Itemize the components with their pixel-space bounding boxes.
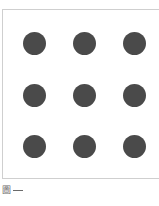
grid-dot [73, 32, 96, 55]
figure-caption: 圖 [2, 184, 23, 196]
grid-dot [23, 32, 46, 55]
grid-dot [123, 84, 146, 107]
grid-dot [73, 135, 96, 158]
figure-canvas: 圖 [0, 0, 159, 206]
grid-dot [73, 84, 96, 107]
grid-dot [123, 135, 146, 158]
grid-dot [123, 32, 146, 55]
grid-dot [23, 135, 46, 158]
grid-dot [23, 84, 46, 107]
caption-glyph: 圖 [2, 185, 11, 195]
caption-dash [13, 190, 23, 191]
